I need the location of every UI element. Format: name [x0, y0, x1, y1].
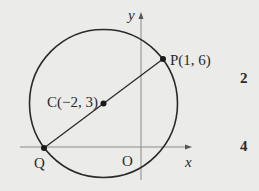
point-q-label: Q — [34, 155, 45, 171]
point-q — [41, 145, 47, 151]
y-axis-arrow-icon — [139, 12, 144, 19]
point-c — [101, 101, 107, 107]
side-number-4: 4 — [240, 138, 248, 154]
point-p-label: P(1, 6) — [170, 52, 211, 69]
origin-label: O — [122, 153, 133, 169]
side-number-2: 2 — [240, 70, 248, 86]
x-axis-arrow-icon — [185, 145, 192, 150]
circle-diameter-diagram: P(1, 6) C(−2, 3) Q O x y 2 4 — [0, 0, 259, 191]
point-c-label: C(−2, 3) — [47, 94, 98, 111]
y-axis-label: y — [126, 7, 135, 23]
x-axis-label: x — [184, 154, 192, 170]
point-p — [160, 56, 166, 62]
y-axis — [139, 12, 144, 180]
